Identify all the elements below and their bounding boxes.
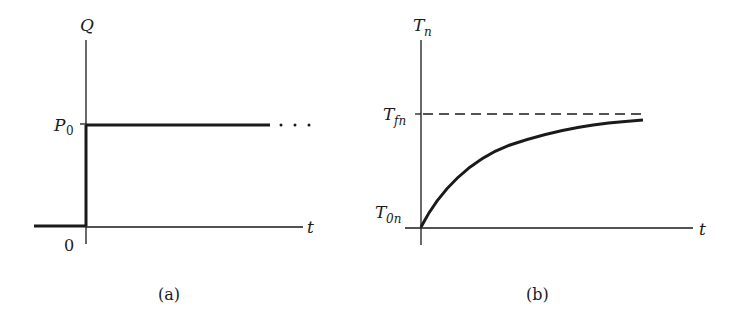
- continuation-dots: [280, 124, 311, 127]
- p0-subscript: 0: [66, 124, 74, 138]
- tfn-subscript: fn: [393, 114, 406, 128]
- x-axis-label: t: [699, 219, 706, 239]
- caption-a: (a): [158, 285, 180, 304]
- x-axis-label: t: [307, 217, 314, 237]
- caption-b: (b): [526, 285, 549, 304]
- response-curve: [421, 120, 643, 227]
- origin-label: 0: [64, 236, 74, 255]
- panel-a: Q t P 0 0 (a): [34, 15, 314, 304]
- panel-b: T n t T fn T 0n (b): [375, 15, 706, 304]
- t0n-subscript: 0n: [386, 212, 401, 226]
- y-axis-label: Q: [80, 15, 94, 35]
- figure: Q t P 0 0 (a) T n t T fn T 0n (b): [0, 0, 737, 332]
- y-axis-subscript: n: [424, 25, 432, 39]
- p0-label: P: [53, 115, 66, 135]
